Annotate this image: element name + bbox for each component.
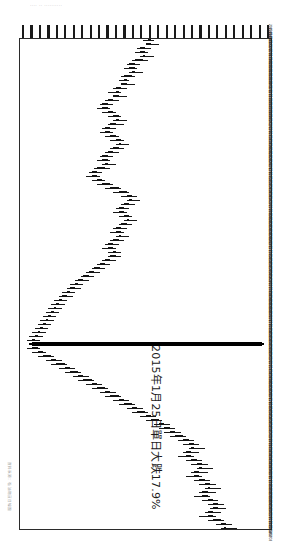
axis-tick [81, 25, 83, 38]
axis-tick [140, 25, 142, 38]
candle-body [38, 331, 41, 333]
candle-body [51, 359, 56, 361]
candle-body [124, 79, 127, 81]
candle-body [132, 71, 135, 73]
axis-tick [157, 25, 159, 38]
candle-body [194, 475, 199, 477]
price-axis-ticks [19, 25, 272, 39]
candle-body [191, 447, 194, 449]
candle-body [119, 207, 124, 209]
axis-tick [98, 25, 100, 38]
axis-tick [174, 25, 176, 38]
candle-body [102, 159, 107, 161]
candle-body [62, 295, 67, 297]
candle-body [137, 411, 145, 413]
candle-body [175, 435, 183, 437]
date-axis-label: 2015/07/03 [268, 525, 272, 541]
candle-body [110, 135, 115, 137]
axis-tick [22, 25, 24, 38]
candle-body [140, 47, 145, 49]
candle-body [213, 519, 221, 521]
candle-body [92, 175, 97, 177]
candle-body [102, 107, 107, 109]
axis-tick [199, 25, 201, 38]
candle-body [208, 499, 213, 501]
candle-body [113, 239, 118, 241]
candle-body [102, 155, 107, 157]
candle-body [208, 511, 213, 513]
candle-body [186, 455, 191, 457]
axis-tick [149, 25, 151, 38]
candle-body [113, 147, 118, 149]
candle-body [89, 271, 94, 273]
candle-body [199, 467, 202, 469]
candle-body [213, 507, 218, 509]
candle-body [129, 199, 132, 201]
candle-body [102, 103, 107, 105]
candle-body [100, 263, 105, 265]
candle-body [116, 119, 119, 121]
candle-body [110, 395, 118, 397]
candle-body [191, 459, 196, 461]
candle-body [108, 247, 113, 249]
candle-body [202, 491, 207, 493]
candle-body [78, 279, 83, 281]
candle-body [97, 179, 102, 181]
axis-tick [56, 25, 58, 38]
candle-body [105, 391, 110, 393]
candle-body [56, 303, 59, 305]
candle-body [186, 451, 191, 453]
candle-body [164, 427, 169, 429]
candle-body [113, 95, 118, 97]
axis-tick [250, 25, 252, 38]
candle-body [124, 75, 132, 77]
axis-tick [47, 25, 49, 38]
candle-body [65, 367, 70, 369]
candle-body [43, 355, 51, 357]
candle-body [105, 163, 108, 165]
candle-body [92, 383, 97, 385]
candle-body [146, 43, 151, 45]
axis-tick [106, 25, 108, 38]
axis-tick [30, 25, 32, 38]
axis-tick [225, 25, 227, 38]
candle-body [108, 151, 113, 153]
candle-body [119, 399, 124, 401]
candle-body [202, 495, 207, 497]
candle-body [113, 115, 118, 117]
candle-body [51, 311, 54, 313]
candle-body [40, 327, 43, 329]
candle-body [121, 223, 126, 225]
candle-body [97, 167, 105, 169]
axis-tick [123, 25, 125, 38]
candle-body [121, 83, 126, 85]
candle-body [113, 251, 116, 253]
candle-body [189, 443, 194, 445]
axis-tick [39, 25, 41, 38]
date-axis-labels: 2015/01/022015/01/052015/01/062015/01/07… [272, 24, 290, 532]
candle-body [116, 87, 121, 89]
candle-body [105, 259, 110, 261]
candle-body [43, 323, 46, 325]
candle-body [221, 523, 226, 525]
axis-tick [132, 25, 134, 38]
axis-tick [90, 25, 92, 38]
candlestick-series [19, 38, 272, 530]
candle-body [124, 403, 132, 405]
axis-tick [115, 25, 117, 38]
candle-body [46, 319, 49, 321]
scan-header-text: .... .. .......... [30, 1, 150, 11]
axis-tick [166, 25, 168, 38]
candle-body [224, 527, 227, 529]
candle-body [32, 339, 35, 341]
candle-body [75, 283, 78, 285]
axis-tick [259, 25, 261, 38]
candle-body [140, 51, 145, 53]
axis-tick [64, 25, 66, 38]
candle-body [94, 267, 99, 269]
candle-body [32, 347, 37, 349]
candle-body [132, 407, 137, 409]
candle-body [119, 211, 124, 213]
candle-body [97, 387, 105, 389]
candle-body [116, 91, 119, 93]
